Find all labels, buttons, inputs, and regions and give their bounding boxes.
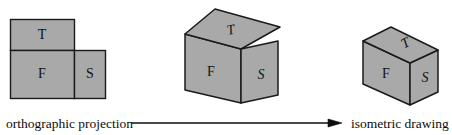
orthographic-to-isometric-figure: T F S T F S T F S (0, 0, 452, 135)
caption-left-label: orthographic projection (6, 116, 133, 131)
figure-page: T F S T F S T F S (0, 0, 452, 135)
iso-label-front: F (382, 66, 390, 81)
caption-row: orthographic projection isometric drawin… (6, 116, 449, 131)
unfolded-box-group: T F S (185, 9, 280, 103)
ortho-label-side: S (86, 66, 94, 81)
unfolded-label-side: S (258, 67, 265, 82)
unfolded-label-front: F (207, 64, 215, 79)
transformation-arrow-head (328, 119, 342, 127)
isometric-box-group: T F S (363, 27, 438, 105)
ortho-label-top: T (38, 27, 47, 42)
iso-label-side: S (422, 70, 429, 85)
orthographic-projection-group: T F S (11, 20, 106, 99)
ortho-label-front: F (38, 66, 46, 81)
caption-right-label: isometric drawing (351, 116, 449, 131)
